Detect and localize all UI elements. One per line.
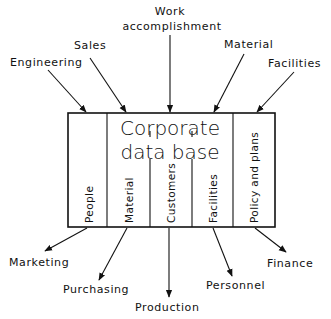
arrow-engineering-icon	[48, 70, 86, 112]
output-label-finance: Finance	[267, 257, 313, 270]
input-label-material: Material	[224, 38, 274, 51]
column-label-material: Material	[123, 177, 135, 223]
output-label-personnel: Personnel	[206, 279, 265, 292]
arrow-marketing-icon	[45, 228, 87, 251]
input-label-engineering: Engineering	[10, 56, 83, 69]
arrow-material-icon	[214, 54, 244, 112]
output-label-production: Production	[135, 301, 200, 314]
column-label-policy-and-plans: Policy and plans	[248, 132, 260, 223]
output-label-purchasing: Purchasing	[63, 283, 129, 296]
output-label-marketing: Marketing	[9, 256, 69, 269]
column-label-people: People	[83, 186, 95, 223]
arrow-facilities-icon	[257, 72, 294, 112]
arrow-purchasing-icon	[99, 228, 127, 280]
column-label-facilities: Facilities	[207, 174, 219, 223]
column-label-customers: Customers	[165, 163, 177, 223]
arrow-personnel-icon	[213, 228, 232, 276]
input-label-work: Work	[155, 5, 185, 18]
database-title-line2: data base	[120, 140, 219, 164]
input-label-sales: Sales	[74, 39, 106, 52]
arrow-finance-icon	[255, 228, 286, 252]
input-label-facilities: Facilities	[268, 57, 321, 70]
corporate-database-diagram: Engineering Sales Work accomplishment Ma…	[0, 0, 331, 319]
database-title-line1: Corporate	[120, 116, 220, 140]
input-label-accomplishment: accomplishment	[122, 20, 221, 33]
arrow-sales-icon	[90, 58, 126, 112]
